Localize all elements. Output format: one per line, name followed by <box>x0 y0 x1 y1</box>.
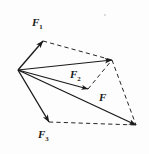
label-f1-subscript: 1 <box>39 23 42 30</box>
label-f2-subscript: 2 <box>77 75 80 82</box>
label-f3: F3 <box>38 129 49 143</box>
label-f2: F2 <box>70 69 81 83</box>
construction-lines-group <box>43 41 136 125</box>
label-f3-subscript: 3 <box>45 135 48 142</box>
label-f1: F1 <box>32 17 43 31</box>
dash-f1-to-sum <box>43 41 112 60</box>
vector-diagram-figure: F1 F2 F3 F <box>0 0 149 154</box>
label-resultant-base: F <box>99 91 106 103</box>
dash-f3-to-resultant <box>49 122 136 125</box>
vectors-group <box>18 41 136 125</box>
dash-f2-to-sum <box>88 60 112 89</box>
vector-partial-sum-shaft <box>18 60 112 70</box>
scan-speck <box>104 14 106 16</box>
vector-f1-shaft <box>18 41 43 70</box>
label-resultant: F <box>99 92 106 106</box>
